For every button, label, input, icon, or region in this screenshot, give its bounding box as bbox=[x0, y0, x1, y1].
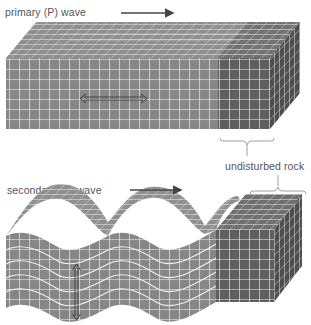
p-block-front-face bbox=[6, 58, 218, 129]
s-wave-block bbox=[6, 184, 302, 322]
s-block-front-face bbox=[6, 230, 216, 322]
s-block-front-undisturbed bbox=[216, 230, 274, 302]
p-block-front-undisturbed bbox=[218, 58, 270, 129]
p-wave-block bbox=[6, 22, 300, 129]
seismic-wave-diagram bbox=[0, 0, 311, 325]
p-undisturbed-bracket bbox=[220, 138, 274, 145]
s-undisturbed-bracket bbox=[250, 187, 306, 194]
